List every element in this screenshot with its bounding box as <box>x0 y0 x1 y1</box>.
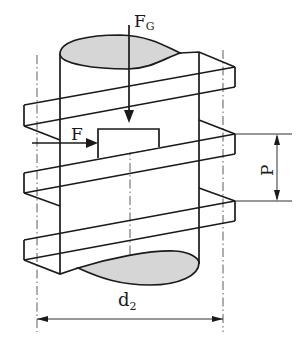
screw-thread-diagram: FG F P d2 <box>0 0 301 344</box>
pitch-label: P <box>257 165 277 176</box>
tangential-force-label: F <box>71 124 83 144</box>
top-section-shape <box>60 35 180 69</box>
band-top-edge <box>180 52 235 67</box>
tangential-force-arrow <box>32 138 98 148</box>
pitch-diameter-label: d2 <box>118 289 137 313</box>
bottom-section-shape <box>78 251 199 285</box>
axial-force-label: FG <box>134 11 155 33</box>
pitch-diameter-dimension <box>37 316 223 322</box>
